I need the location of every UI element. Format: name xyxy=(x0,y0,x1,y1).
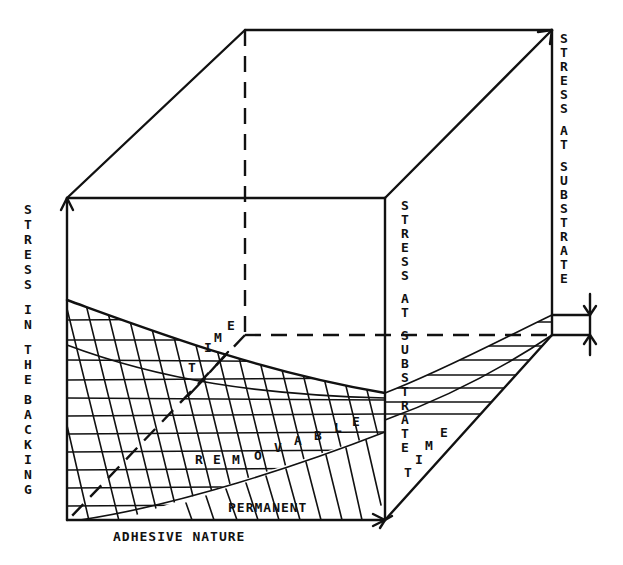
front-right-vertical-label: S T R E S S A T S U B S T R A T E xyxy=(401,198,409,455)
svg-text:E: E xyxy=(24,372,32,387)
svg-text:S: S xyxy=(24,277,32,292)
adhesive-stress-cube-diagram: S T R E S S I N T H E B A C K I N G S T … xyxy=(0,0,623,565)
svg-text:N: N xyxy=(24,317,32,332)
svg-text:M: M xyxy=(232,452,240,467)
left-vertical-label: S T R E S S I N T H E B A C K I N G xyxy=(24,202,32,497)
svg-text:E: E xyxy=(401,240,409,255)
svg-text:S: S xyxy=(560,101,568,116)
svg-text:U: U xyxy=(560,173,568,188)
svg-text:E: E xyxy=(401,440,409,455)
svg-text:T: T xyxy=(560,45,568,60)
svg-text:S: S xyxy=(560,201,568,216)
svg-text:S: S xyxy=(401,268,409,283)
svg-text:E: E xyxy=(440,425,448,440)
svg-text:K: K xyxy=(24,437,32,452)
svg-text:R: R xyxy=(560,59,568,74)
svg-text:S: S xyxy=(560,31,568,46)
svg-text:R: R xyxy=(401,398,409,413)
svg-text:A: A xyxy=(24,407,32,422)
svg-text:S: S xyxy=(401,328,409,343)
svg-text:S: S xyxy=(24,262,32,277)
svg-text:T: T xyxy=(560,137,568,152)
svg-text:G: G xyxy=(24,482,32,497)
svg-text:M: M xyxy=(425,438,433,453)
svg-text:B: B xyxy=(560,187,568,202)
svg-text:U: U xyxy=(401,342,409,357)
svg-text:A: A xyxy=(560,243,568,258)
svg-text:A: A xyxy=(294,433,302,448)
svg-text:R: R xyxy=(560,229,568,244)
svg-text:O: O xyxy=(254,448,262,463)
svg-text:S: S xyxy=(401,198,409,213)
svg-text:T: T xyxy=(401,305,409,320)
svg-text:T: T xyxy=(401,384,409,399)
substrate-delta-indicator xyxy=(552,294,596,355)
svg-text:E: E xyxy=(352,414,360,429)
svg-text:L: L xyxy=(334,420,342,435)
svg-text:E: E xyxy=(560,73,568,88)
time-label-right: T I M E xyxy=(404,425,448,480)
svg-text:T: T xyxy=(24,217,32,232)
svg-text:A: A xyxy=(401,291,409,306)
svg-text:E: E xyxy=(24,247,32,262)
svg-text:T: T xyxy=(401,212,409,227)
svg-text:S: S xyxy=(401,370,409,385)
svg-text:T: T xyxy=(24,342,32,357)
svg-text:B: B xyxy=(314,428,322,443)
svg-text:T: T xyxy=(560,215,568,230)
svg-text:I: I xyxy=(204,340,212,355)
svg-text:M: M xyxy=(214,330,222,345)
svg-text:E: E xyxy=(560,271,568,286)
svg-text:T: T xyxy=(401,426,409,441)
svg-text:S: S xyxy=(560,159,568,174)
svg-text:S: S xyxy=(24,202,32,217)
substrate-wedge xyxy=(385,315,552,420)
svg-text:C: C xyxy=(24,422,32,437)
cube-edges xyxy=(67,30,552,520)
svg-text:H: H xyxy=(24,357,32,372)
svg-text:I: I xyxy=(24,452,32,467)
svg-text:B: B xyxy=(24,392,32,407)
time-label-left: T I M E xyxy=(188,318,235,375)
svg-text:N: N xyxy=(24,467,32,482)
back-right-vertical-label: S T R E S S A T S U B S T R A T E xyxy=(560,31,568,286)
svg-text:E: E xyxy=(227,318,235,333)
svg-text:E: E xyxy=(213,452,221,467)
svg-text:I: I xyxy=(24,302,32,317)
svg-text:B: B xyxy=(401,356,409,371)
svg-text:R: R xyxy=(24,232,32,247)
svg-text:T: T xyxy=(560,257,568,272)
svg-text:V: V xyxy=(274,440,282,455)
svg-text:A: A xyxy=(560,123,568,138)
svg-text:S: S xyxy=(560,87,568,102)
svg-text:T: T xyxy=(188,360,196,375)
adhesive-nature-label: ADHESIVE NATURE xyxy=(113,529,245,544)
svg-text:R: R xyxy=(195,452,203,467)
svg-text:R: R xyxy=(401,226,409,241)
svg-text:I: I xyxy=(415,452,423,467)
permanent-label: PERMANENT xyxy=(228,500,307,515)
svg-text:A: A xyxy=(401,412,409,427)
svg-text:S: S xyxy=(401,254,409,269)
svg-text:T: T xyxy=(404,465,412,480)
